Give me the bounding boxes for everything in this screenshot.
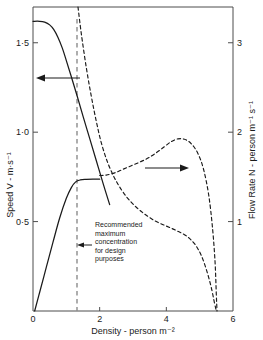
x-tick-label: 2 — [97, 314, 102, 324]
x-tick-label: 4 — [164, 314, 169, 324]
x-axis-title: Density - person m⁻² — [91, 326, 175, 336]
y-tick-label: 1·0 — [16, 127, 29, 137]
y-axis-title: Speed V - m·s⁻¹ — [5, 152, 15, 218]
recommended-maximum-note-line: concentration — [95, 238, 137, 245]
svg-text:Density - person m⁻²: Density - person m⁻² — [91, 326, 175, 336]
recommended-maximum-note-line: maximum — [95, 230, 126, 237]
x-tick-label: 6 — [230, 314, 235, 324]
y2-tick-label: 2 — [237, 127, 242, 137]
chart-figure: 0246 0·51·01·5 123 Recommendedmaximumcon… — [0, 0, 263, 340]
x-tick-label: 0 — [30, 314, 35, 324]
chart-background — [0, 0, 263, 340]
recommended-maximum-note-line: purposes — [95, 255, 124, 263]
x-axis-title-text: Density - person m⁻² — [91, 326, 175, 336]
y-tick-label: 1·5 — [16, 38, 29, 48]
y2-axis-title: Flow Rate N - person m⁻¹ s⁻¹ — [247, 101, 257, 219]
y2-tick-label: 3 — [237, 38, 242, 48]
recommended-maximum-note-line: for design — [95, 247, 126, 255]
y-tick-label: 0·5 — [16, 217, 29, 227]
svg-text:Speed V - m·s⁻¹: Speed V - m·s⁻¹ — [5, 152, 15, 218]
speed-flow-density-chart: 0246 0·51·01·5 123 Recommendedmaximumcon… — [0, 0, 263, 340]
y2-tick-label: 1 — [237, 217, 242, 227]
recommended-maximum-note-line: Recommended — [95, 221, 143, 228]
y2-axis-title-text: Flow Rate N - person m⁻¹ s⁻¹ — [247, 101, 257, 219]
svg-text:Flow Rate N - person m⁻¹ s⁻¹: Flow Rate N - person m⁻¹ s⁻¹ — [247, 101, 257, 219]
y-axis-title-text: Speed V - m·s⁻¹ — [5, 152, 15, 218]
